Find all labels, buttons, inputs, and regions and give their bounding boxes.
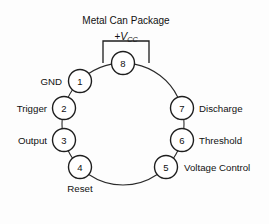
vcc-subscript: CC bbox=[127, 34, 138, 43]
pin-label-3: Output bbox=[18, 135, 47, 146]
pin-group: 1GND2Trigger3Output4Reset5Voltage Contro… bbox=[17, 52, 251, 194]
pin-number-5: 5 bbox=[163, 162, 168, 173]
pin-6[interactable]: 6Threshold bbox=[171, 129, 243, 152]
ring-arc-segment bbox=[89, 64, 112, 73]
pin-4[interactable]: 4Reset bbox=[67, 156, 93, 194]
pin-label-7: Discharge bbox=[199, 103, 243, 114]
pin-label-5: Voltage Control bbox=[184, 162, 250, 173]
pin-5[interactable]: 5Voltage Control bbox=[155, 156, 251, 179]
pin-number-4: 4 bbox=[77, 162, 82, 173]
ring-arc-segment bbox=[89, 174, 157, 185]
pin-number-8: 8 bbox=[120, 58, 125, 69]
ring-arc-segment bbox=[68, 151, 72, 158]
pin-label-2: Trigger bbox=[17, 103, 48, 114]
pin-7[interactable]: 7Discharge bbox=[171, 97, 243, 120]
pin-number-2: 2 bbox=[61, 103, 66, 114]
ring-arc-segment bbox=[68, 90, 72, 97]
pin-3[interactable]: 3Output bbox=[18, 129, 76, 152]
pin-label-6: Threshold bbox=[199, 135, 242, 146]
ring-arc-segment bbox=[135, 64, 178, 97]
pin-2[interactable]: 2Trigger bbox=[17, 97, 76, 120]
pin-number-3: 3 bbox=[61, 135, 66, 146]
metal-can-package-figure: Metal Can Package +VCC 1GND2Trigger3Outp… bbox=[0, 0, 269, 224]
pinout-diagram: Metal Can Package +VCC 1GND2Trigger3Outp… bbox=[0, 0, 269, 224]
pin-number-6: 6 bbox=[179, 135, 184, 146]
pin-label-4: Reset bbox=[67, 183, 93, 194]
pin-number-7: 7 bbox=[179, 103, 184, 114]
figure-title: Metal Can Package bbox=[82, 15, 170, 26]
pin-8[interactable]: 8 bbox=[112, 52, 135, 75]
pin-1[interactable]: 1GND bbox=[40, 70, 91, 93]
pin-number-1: 1 bbox=[77, 76, 82, 87]
pin-label-1: GND bbox=[40, 76, 62, 87]
ring-arc-segment bbox=[173, 151, 177, 158]
